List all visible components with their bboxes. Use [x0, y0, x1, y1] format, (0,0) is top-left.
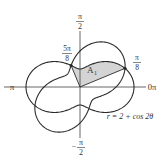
svg-text:π: π — [135, 53, 139, 62]
svg-text:8: 8 — [65, 54, 69, 63]
svg-text:2: 2 — [79, 148, 83, 157]
label-pi: π — [10, 82, 15, 92]
label-5pi-over-8: 5π 8 — [62, 44, 72, 63]
label-minus-pi-over-2: − π 2 — [72, 138, 85, 157]
svg-text:π: π — [79, 138, 83, 147]
intersection-point-5pi-8 — [69, 64, 72, 67]
svg-text:A: A — [87, 65, 94, 75]
svg-text:−: − — [72, 142, 77, 151]
shaded-region-a1 — [71, 62, 125, 87]
svg-text:1: 1 — [94, 70, 97, 76]
label-zero: 0π — [148, 82, 157, 92]
svg-text:5π: 5π — [63, 44, 71, 53]
polar-diagram: π 2 − π 2 π 0π 5π 8 π 8 A 1 r — [0, 0, 165, 163]
intersection-point-pi-8 — [123, 67, 126, 70]
diagram-canvas: π 2 − π 2 π 0π 5π 8 π 8 A 1 r — [0, 0, 165, 163]
svg-text:π: π — [78, 12, 82, 21]
svg-text:2: 2 — [78, 22, 82, 31]
label-pi-over-8: π 8 — [133, 53, 141, 72]
svg-text:8: 8 — [135, 63, 139, 72]
label-pi-over-2: π 2 — [76, 12, 84, 31]
equation-label: r = 2 + cos 2θ — [107, 112, 154, 121]
